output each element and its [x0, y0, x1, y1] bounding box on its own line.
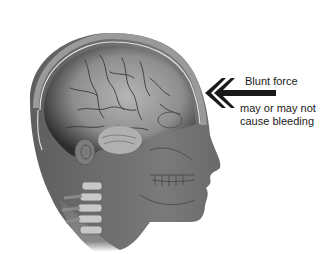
bleeding-note-line-2: cause bleeding	[240, 115, 316, 128]
blunt-force-label: Blunt force	[245, 75, 298, 88]
bleeding-note: may or may not cause bleeding	[240, 102, 316, 128]
ear	[75, 139, 95, 165]
bleeding-note-line-1: may or may not	[240, 102, 316, 115]
